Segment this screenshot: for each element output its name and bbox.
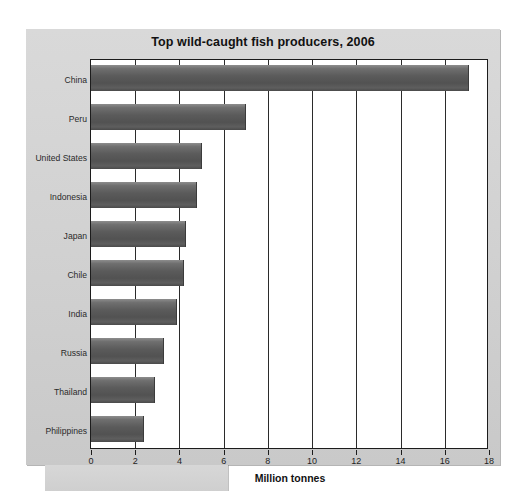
bar-row[interactable] xyxy=(91,138,489,177)
bar-row[interactable] xyxy=(91,372,489,411)
bar[interactable] xyxy=(91,221,186,247)
x-tick-mark xyxy=(312,450,313,455)
category-label: China xyxy=(0,75,87,85)
category-label: Peru xyxy=(0,114,87,124)
bar-row[interactable] xyxy=(91,333,489,372)
bar[interactable] xyxy=(91,182,197,208)
plot-area: ChinaPeruUnited StatesIndonesiaJapanChil… xyxy=(90,59,488,449)
x-tick-mark xyxy=(401,450,402,455)
x-tick-mark xyxy=(135,450,136,455)
x-tick-mark xyxy=(179,450,180,455)
category-label: Philippines xyxy=(0,426,87,436)
x-tick-label: 18 xyxy=(474,456,504,466)
page-panel-footer xyxy=(45,465,228,491)
x-tick-label: 16 xyxy=(430,456,460,466)
x-tick-label: 14 xyxy=(386,456,416,466)
bar-row[interactable] xyxy=(91,255,489,294)
bar-row[interactable] xyxy=(91,294,489,333)
category-axis-labels: ChinaPeruUnited StatesIndonesiaJapanChil… xyxy=(0,60,87,450)
x-tick-mark xyxy=(489,450,490,455)
x-tick-mark xyxy=(268,450,269,455)
bar[interactable] xyxy=(91,104,246,130)
x-tick-mark xyxy=(356,450,357,455)
bar[interactable] xyxy=(91,416,144,442)
bar[interactable] xyxy=(91,260,184,286)
category-label: Japan xyxy=(0,231,87,241)
bar[interactable] xyxy=(91,377,155,403)
bar[interactable] xyxy=(91,338,164,364)
x-tick-mark xyxy=(224,450,225,455)
category-label: Indonesia xyxy=(0,192,87,202)
category-label: United States xyxy=(0,153,87,163)
bar-row[interactable] xyxy=(91,177,489,216)
bar-row[interactable] xyxy=(91,216,489,255)
x-tick-mark xyxy=(91,450,92,455)
category-label: Chile xyxy=(0,270,87,280)
category-label: Thailand xyxy=(0,387,87,397)
x-tick-label: 12 xyxy=(341,456,371,466)
x-tick-label: 10 xyxy=(297,456,327,466)
bar[interactable] xyxy=(91,65,469,91)
bar[interactable] xyxy=(91,143,202,169)
bars-layer xyxy=(91,60,487,448)
x-tick-label: 8 xyxy=(253,456,283,466)
bar[interactable] xyxy=(91,299,177,325)
bar-row[interactable] xyxy=(91,411,489,450)
category-label: India xyxy=(0,309,87,319)
x-tick-mark xyxy=(445,450,446,455)
category-label: Russia xyxy=(0,348,87,358)
bar-row[interactable] xyxy=(91,60,489,99)
bar-row[interactable] xyxy=(91,99,489,138)
chart-title: Top wild-caught fish producers, 2006 xyxy=(26,35,500,49)
figure-panel: Top wild-caught fish producers, 2006 Chi… xyxy=(26,29,500,465)
